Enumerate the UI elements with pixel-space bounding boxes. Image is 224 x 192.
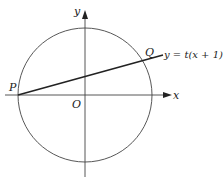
line-equation-label: y = t(x + 1) bbox=[163, 49, 223, 60]
y-axis-arrow-icon bbox=[82, 10, 88, 19]
origin-label: O bbox=[72, 98, 81, 111]
x-axis-label: x bbox=[173, 89, 180, 102]
circle-line-diagram: y x O P Q y = t(x + 1) bbox=[0, 0, 224, 192]
y-axis-label: y bbox=[73, 5, 81, 18]
point-q-label: Q bbox=[145, 46, 154, 59]
x-axis-arrow-icon bbox=[163, 92, 172, 98]
secant-line bbox=[18, 55, 163, 95]
diagram-canvas: y x O P Q y = t(x + 1) bbox=[0, 0, 224, 192]
point-p-label: P bbox=[8, 81, 17, 94]
